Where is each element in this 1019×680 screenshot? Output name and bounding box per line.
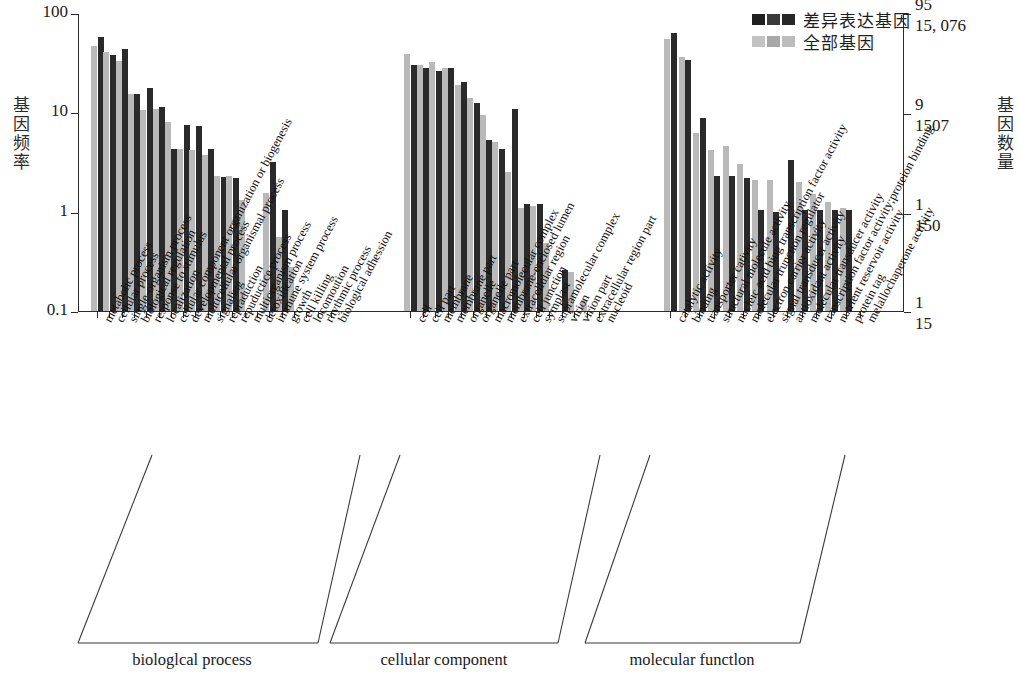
y-axis-left-tick-label: 1 xyxy=(12,201,68,221)
group-label-biological-process: biologlcal process xyxy=(72,650,312,670)
y-axis-left-tick xyxy=(71,14,78,15)
bar-deg-genes xyxy=(423,68,429,311)
bar-all-genes xyxy=(116,61,122,311)
legend-label-all: 全部基因 xyxy=(803,29,875,54)
y-axis-right-tick-upper: 9 xyxy=(915,95,924,115)
bar-group xyxy=(664,14,678,311)
bar-all-genes xyxy=(417,65,423,311)
bar-deg-genes xyxy=(671,33,677,311)
y-axis-right-tick-lower: 15, 076 xyxy=(915,16,966,36)
group-label-molecular-function: molecular functlon xyxy=(572,650,812,670)
bar-deg-genes xyxy=(436,71,442,311)
bar-all-genes xyxy=(442,68,448,311)
y-axis-right-tick-upper: 1 xyxy=(915,293,924,313)
y-axis-right-tick xyxy=(904,114,911,115)
group-label-cellular-component: cellular component xyxy=(324,650,564,670)
legend-swatch-all xyxy=(752,36,795,47)
bar-all-genes xyxy=(429,62,435,311)
y-axis-left-tick-label: 10 xyxy=(12,101,68,121)
y-axis-right-tick-upper: 95 xyxy=(915,0,932,15)
legend: 差异表达基因 全部基因 xyxy=(752,8,911,52)
y-axis-left-tick xyxy=(71,213,78,214)
bar-all-genes xyxy=(404,54,410,311)
bar-all-genes xyxy=(664,39,670,311)
bar-all-genes xyxy=(103,52,109,312)
legend-item-deg: 差异表达基因 xyxy=(752,8,911,30)
y-axis-right-title: 基因数量 xyxy=(992,96,1017,172)
bar-deg-genes xyxy=(448,68,454,311)
y-axis-left-tick xyxy=(71,113,78,114)
legend-swatch-deg xyxy=(752,14,795,25)
bar-all-genes xyxy=(679,57,685,311)
x-axis-category-labels: metabolic processcellular processsingle-… xyxy=(0,312,1019,612)
y-axis-left-tick-label: 100 xyxy=(12,2,68,22)
legend-item-all: 全部基因 xyxy=(752,30,911,52)
bar-group xyxy=(679,14,693,311)
bar-deg-genes xyxy=(685,60,691,312)
bar-all-genes xyxy=(91,46,97,311)
go-enrichment-chart: 基因频率 1001010.1 9515, 076915071150115 基因数… xyxy=(0,0,1019,680)
bar-deg-genes xyxy=(411,65,417,311)
